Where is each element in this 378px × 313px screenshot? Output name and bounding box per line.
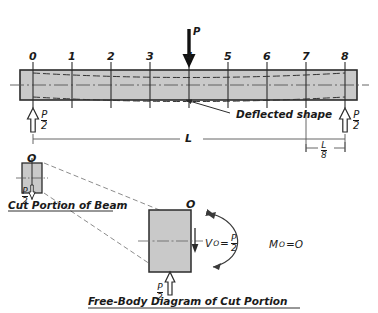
fbd-shear-equation: VO= P 2 — [205, 232, 237, 253]
station-label-4: 4 — [185, 50, 193, 63]
cut-portion-node-label: O — [27, 152, 36, 165]
fbd-moment-value: =O — [286, 238, 303, 250]
right-reaction-numerator: P — [353, 110, 359, 120]
fbd-moment-symbol: M — [269, 238, 278, 250]
right-reaction-label: P 2 — [353, 110, 359, 131]
fbd-shear-denominator: 2 — [231, 243, 237, 253]
deflected-shape-label: Deflected shape — [236, 108, 332, 120]
left-reaction-numerator: P — [41, 110, 47, 120]
segment-numerator: L — [321, 141, 327, 150]
segment-dimension-label: L 8 — [321, 140, 327, 160]
cut-portion-reaction-numerator: P — [22, 187, 28, 196]
station-label-2: 2 — [107, 50, 115, 63]
left-reaction-arrow — [28, 108, 39, 132]
station-label-3: 3 — [146, 50, 154, 63]
segment-denominator: 8 — [321, 150, 327, 160]
fbd-moment-subscript: O — [279, 240, 285, 249]
figure-canvas: 0 1 2 3 4 5 6 7 8 P P 2 P 2 Deflected sh… — [0, 0, 378, 313]
right-reaction-denominator: 2 — [353, 120, 359, 131]
station-label-7: 7 — [302, 50, 310, 63]
projection-lines — [44, 163, 162, 272]
station-label-1: 1 — [68, 50, 76, 63]
fbd-moment-equation: MO=O — [269, 233, 303, 252]
fbd-shear-equals: = — [220, 237, 229, 249]
fbd-reaction-numerator: P — [157, 283, 163, 292]
right-reaction-arrow — [340, 108, 351, 132]
fbd-node-label: O — [186, 198, 195, 211]
fbd-reaction-arrow — [165, 272, 175, 295]
fbd-shear-subscript: O — [213, 239, 219, 248]
station-label-8: 8 — [341, 50, 349, 63]
applied-load-label: P — [193, 26, 200, 37]
cut-portion-title: Cut Portion of Beam — [8, 199, 128, 211]
station-label-5: 5 — [224, 50, 232, 63]
free-body-title: Free-Body Diagram of Cut Portion — [88, 295, 288, 307]
deflected-shape-leader — [186, 100, 230, 113]
span-dimension-label: L — [185, 132, 192, 145]
station-label-0: 0 — [29, 50, 37, 63]
fbd-shear-numerator: P — [231, 234, 237, 243]
fbd-shear-symbol: V — [205, 237, 212, 249]
left-reaction-label: P 2 — [41, 110, 47, 131]
station-label-6: 6 — [263, 50, 271, 63]
fbd-shear-arrow — [192, 228, 199, 253]
left-reaction-denominator: 2 — [41, 120, 47, 131]
